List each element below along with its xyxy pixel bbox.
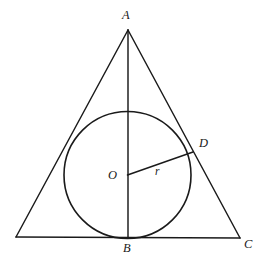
radius-label-r: r (155, 166, 159, 178)
vertex-label-a: A (122, 9, 130, 22)
vertex-label-c: C (244, 238, 252, 251)
tangent-point-label-d: D (199, 137, 208, 150)
center-label-o: O (108, 169, 117, 182)
geometry-canvas (0, 0, 264, 262)
radius-segment-od (128, 152, 194, 175)
triangle-right-side (128, 30, 240, 238)
vertex-label-b: B (123, 242, 131, 255)
geometry-figure: A B C D O r (0, 0, 264, 262)
